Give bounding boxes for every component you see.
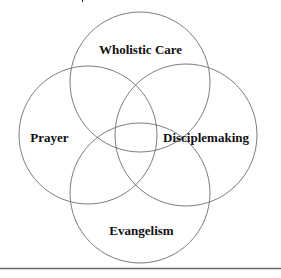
label-evangelism: Evangelism (109, 223, 173, 238)
label-wholistic-care: Wholistic Care (99, 42, 182, 57)
venn-diagram: Wholistic Care Prayer Disciplemaking Eva… (0, 0, 281, 278)
cropped-title-fragment (82, 0, 83, 2)
label-prayer: Prayer (30, 130, 68, 145)
label-disciplemaking: Disciplemaking (163, 130, 249, 145)
